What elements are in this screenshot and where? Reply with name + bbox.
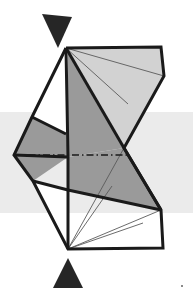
figure-container: Polyhedron with cutting plane	[0, 0, 193, 296]
polyhedron-figure	[0, 0, 193, 296]
corner-speck	[181, 285, 183, 287]
